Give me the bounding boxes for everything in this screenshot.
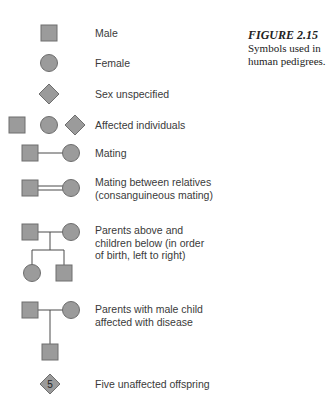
label-male: Male [95,27,118,40]
label-consanguineous: Mating between relatives (consanguineous… [95,176,213,201]
female-circle-icon [41,55,58,72]
affected-circle-icon [41,117,58,134]
offspring-count: 5 [47,379,53,390]
parent2-female-icon [63,302,80,319]
label-parents-affected-line2: affected with disease [95,316,203,329]
label-parents-affected-line1: Parents with male child [95,303,203,316]
label-parents-affected-child: Parents with male child affected with di… [95,303,203,328]
affected-diamond-icon [65,115,85,135]
five-offspring-symbol: 5 [40,374,60,394]
affected-square-icon [9,117,25,133]
parent-male-icon [22,224,38,240]
label-consanguineous-line2: (consanguineous mating) [95,189,213,202]
figure-caption: FIGURE 2.15 Symbols used in human pedigr… [248,29,326,67]
label-mating: Mating [95,147,127,160]
mating-female-icon [63,145,80,162]
caption-line-2: human pedigrees. [248,55,326,68]
mating-male-icon [22,145,38,161]
parent-female-icon [63,224,80,241]
consanguineous-male-icon [22,180,38,196]
parents-affected-child-symbol [38,310,63,344]
child-male-icon [56,265,72,281]
male-square-icon [41,25,57,41]
label-parents-children-line3: of birth, left to right) [95,249,204,262]
label-female: Female [95,57,130,70]
label-consanguineous-line1: Mating between relatives [95,176,213,189]
parent2-male-icon [22,302,38,318]
caption-line-1: Symbols used in [248,42,326,55]
label-affected: Affected individuals [95,119,185,132]
label-five-offspring: Five unaffected offspring [95,378,210,391]
consanguineous-female-icon [63,180,80,197]
consanguineous-mating-symbol [22,180,80,197]
label-sex-unspecified: Sex unspecified [95,88,169,101]
label-parents-children-line2: children below (in order [95,237,204,250]
child-female-icon [24,265,41,282]
unspecified-diamond-icon [39,84,59,104]
label-parents-children-line1: Parents above and [95,224,204,237]
affected-male-child-icon [42,344,58,360]
label-parents-children: Parents above and children below (in ord… [95,224,204,262]
mating-symbol [22,145,80,162]
figure-title: FIGURE 2.15 [248,29,326,42]
